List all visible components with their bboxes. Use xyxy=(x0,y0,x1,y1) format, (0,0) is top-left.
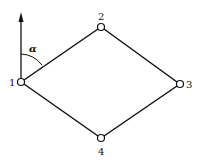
edge-1-2 xyxy=(24,29,98,80)
edge-4-1 xyxy=(24,84,98,136)
node-2-label: 2 xyxy=(98,11,104,22)
traverse-diagram: α 1 2 3 4 xyxy=(0,0,202,164)
node-3 xyxy=(177,81,184,88)
node-1-label: 1 xyxy=(9,77,15,88)
north-arrow-head-icon xyxy=(19,12,24,22)
edge-2-3 xyxy=(104,29,177,82)
node-4-label: 4 xyxy=(98,146,104,157)
node-1 xyxy=(18,79,25,86)
angle-label: α xyxy=(29,43,37,54)
node-4 xyxy=(98,135,105,142)
edge-3-4 xyxy=(104,86,177,136)
angle-arc xyxy=(21,54,42,65)
node-2 xyxy=(98,24,105,31)
node-3-label: 3 xyxy=(186,79,192,90)
